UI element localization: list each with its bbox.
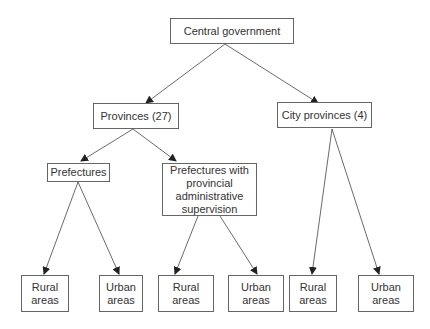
node-rural-areas-2: Rural areas [158,275,214,312]
node-rural-areas-1: Rural areas [21,275,69,312]
node-rural-areas-3: Rural areas [289,275,337,312]
node-city-provinces: City provinces (4) [277,102,372,128]
node-urban-areas-1: Urban areas [99,275,143,312]
node-urban-areas-3: Urban areas [358,275,414,312]
node-prefectures-with-supervision: Prefectures with provincial administrati… [162,163,257,216]
node-urban-areas-2: Urban areas [228,275,284,312]
node-central-government: Central government [170,18,294,44]
hierarchy-diagram: Central government Provinces (27) City p… [0,0,430,329]
node-prefectures: Prefectures [47,163,110,182]
node-provinces: Provinces (27) [93,103,179,129]
